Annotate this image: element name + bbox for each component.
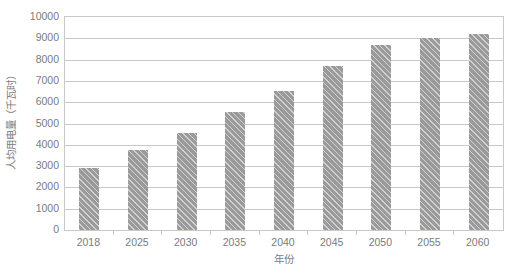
x-axis-tick-label: 2040	[271, 237, 294, 248]
x-axis-tick	[405, 231, 406, 235]
x-axis-tick-labels: 201820252030203520402045205020552060	[64, 237, 504, 253]
x-axis-tick-label: 2030	[174, 237, 197, 248]
x-axis-tick-label: 2045	[320, 237, 343, 248]
y-axis-tick-label: 1000	[36, 202, 59, 213]
y-axis-tick-label: 5000	[36, 117, 59, 128]
bar-chart: 人均用电量（千瓦时） 01000200030004000500060007000…	[0, 0, 510, 274]
x-axis-tick-label: 2035	[223, 237, 246, 248]
plot-area	[64, 16, 504, 231]
bar	[274, 91, 294, 230]
x-axis-tick	[307, 231, 308, 235]
y-axis-tick-label: 9000	[36, 32, 59, 43]
y-axis-tick-label: 7000	[36, 75, 59, 86]
x-axis-tick-label: 2025	[125, 237, 148, 248]
x-axis-tick-label: 2018	[77, 237, 100, 248]
bar	[225, 112, 245, 230]
y-axis-tick-labels: 0100020003000400050006000700080009000100…	[18, 10, 62, 234]
x-axis-tick	[113, 231, 114, 235]
bar	[420, 38, 440, 230]
bar	[323, 66, 343, 230]
x-axis-tick	[210, 231, 211, 235]
y-axis-tick-label: 8000	[36, 53, 59, 64]
y-axis-title-text: 人均用电量（千瓦时）	[6, 70, 17, 170]
bars-layer	[65, 17, 503, 230]
bar	[128, 150, 148, 230]
x-axis-tick	[259, 231, 260, 235]
x-axis-tick-label: 2055	[417, 237, 440, 248]
x-axis-tick	[161, 231, 162, 235]
x-axis-title: 年份	[64, 254, 504, 265]
y-axis-tick-label: 2000	[36, 181, 59, 192]
y-axis-tick-label: 10000	[30, 11, 59, 22]
y-axis-tick-label: 3000	[36, 160, 59, 171]
y-axis-tick-label: 6000	[36, 96, 59, 107]
y-axis-tick-label: 0	[53, 224, 59, 235]
x-axis-tick	[356, 231, 357, 235]
bar	[79, 168, 99, 230]
x-axis-tick	[453, 231, 454, 235]
x-axis-tick-label: 2050	[369, 237, 392, 248]
bar	[469, 34, 489, 230]
bar	[371, 45, 391, 230]
bar	[177, 133, 197, 230]
x-axis-tick-label: 2060	[466, 237, 489, 248]
y-axis-tick-label: 4000	[36, 139, 59, 150]
